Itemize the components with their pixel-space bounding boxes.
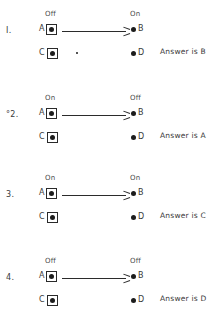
node-a[interactable]: A — [39, 105, 57, 121]
arrow-a-to-b-icon — [62, 28, 130, 35]
filled-dot-icon — [131, 111, 136, 116]
filled-dot-icon — [131, 27, 136, 32]
node-c[interactable]: C — [39, 45, 58, 61]
state-label-right: On — [130, 10, 140, 18]
arrow-head-upper — [123, 111, 130, 114]
filled-dot-icon — [50, 135, 55, 140]
node-b[interactable]: B — [131, 185, 144, 201]
node-b-label: B — [138, 25, 144, 33]
node-d-label: D — [138, 213, 144, 221]
arrow-shaft — [62, 115, 126, 116]
filled-dot-icon — [131, 274, 136, 279]
switch-box-icon[interactable] — [46, 24, 57, 35]
filled-dot-icon — [131, 51, 136, 56]
problem-item-1: I. Off On A B C D — [0, 8, 218, 70]
node-a[interactable]: A — [39, 21, 57, 37]
node-b-label: B — [138, 109, 144, 117]
node-c-label: C — [39, 49, 45, 57]
answer-label: Answer is C — [160, 211, 206, 220]
node-b[interactable]: B — [131, 21, 144, 37]
switch-box-icon[interactable] — [46, 188, 57, 199]
node-d-label: D — [138, 49, 144, 57]
node-d[interactable]: D — [131, 129, 144, 145]
arrow-shaft — [62, 278, 126, 279]
answer-label: Answer is D — [160, 294, 206, 303]
state-label-left: On — [45, 94, 55, 102]
node-d[interactable]: D — [131, 292, 144, 308]
node-c-label: C — [39, 133, 45, 141]
arrow-a-to-b-icon — [62, 275, 130, 282]
filled-dot-icon — [49, 274, 54, 279]
node-d[interactable]: D — [131, 45, 144, 61]
state-label-left: Off — [45, 10, 56, 18]
state-label-right: Off — [130, 94, 141, 102]
filled-dot-icon — [131, 215, 136, 220]
problem-item-4: 4. Off Off A B C D — [0, 255, 218, 317]
filled-dot-icon — [131, 191, 136, 196]
node-d-label: D — [138, 133, 144, 141]
answer-label: Answer is A — [160, 131, 206, 140]
node-d-label: D — [138, 296, 144, 304]
switch-box-icon[interactable] — [47, 295, 58, 306]
switch-box-icon[interactable] — [47, 132, 58, 143]
node-a-label: A — [39, 272, 44, 280]
arrow-head-upper — [123, 27, 130, 30]
scan-speck — [76, 52, 78, 54]
filled-dot-icon — [50, 51, 55, 56]
filled-dot-icon — [131, 135, 136, 140]
filled-dot-icon — [131, 298, 136, 303]
state-label-right: Off — [130, 257, 141, 265]
filled-dot-icon — [50, 215, 55, 220]
node-a-label: A — [39, 109, 44, 117]
node-b-label: B — [138, 189, 144, 197]
node-c[interactable]: C — [39, 209, 58, 225]
worksheet-page: I. Off On A B C D — [0, 0, 218, 332]
node-b[interactable]: B — [131, 105, 144, 121]
switch-box-icon[interactable] — [47, 48, 58, 59]
node-a-label: A — [39, 189, 44, 197]
problem-item-2: °2. On Off A B C D — [0, 92, 218, 154]
filled-dot-icon — [49, 27, 54, 32]
node-c-label: C — [39, 213, 45, 221]
arrow-head-upper — [123, 191, 130, 194]
node-b[interactable]: B — [131, 268, 144, 284]
state-label-left: On — [45, 174, 55, 182]
node-a-label: A — [39, 25, 44, 33]
arrow-a-to-b-icon — [62, 112, 130, 119]
arrow-shaft — [62, 31, 126, 32]
problem-item-3: 3. On On A B C D — [0, 172, 218, 234]
answer-label: Answer is B — [160, 47, 206, 56]
switch-box-icon[interactable] — [46, 108, 57, 119]
state-label-left: Off — [45, 257, 56, 265]
state-label-right: On — [130, 174, 140, 182]
arrow-head-upper — [123, 274, 130, 277]
switch-box-icon[interactable] — [47, 212, 58, 223]
node-b-label: B — [138, 272, 144, 280]
node-c[interactable]: C — [39, 129, 58, 145]
arrow-a-to-b-icon — [62, 192, 130, 199]
arrow-shaft — [62, 195, 126, 196]
filled-dot-icon — [49, 191, 54, 196]
filled-dot-icon — [49, 111, 54, 116]
switch-box-icon[interactable] — [46, 271, 57, 282]
node-c[interactable]: C — [39, 292, 58, 308]
node-d[interactable]: D — [131, 209, 144, 225]
node-c-label: C — [39, 296, 45, 304]
filled-dot-icon — [50, 298, 55, 303]
node-a[interactable]: A — [39, 185, 57, 201]
node-a[interactable]: A — [39, 268, 57, 284]
